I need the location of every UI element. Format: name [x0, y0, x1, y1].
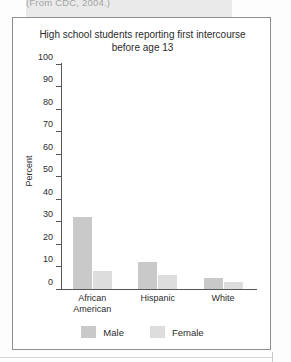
y-axis-tick-label: 80: [23, 97, 53, 107]
y-axis-tick-label: 100: [23, 52, 53, 62]
legend-swatch-male: [81, 326, 96, 338]
bar-female-white: [224, 282, 243, 289]
x-axis-category-label-line: African: [78, 293, 106, 303]
x-axis-category-label-line: White: [212, 293, 235, 303]
legend-label-female: Female: [172, 327, 204, 338]
y-axis-tick-label: 60: [23, 142, 53, 152]
bar-female-african-american: [93, 271, 112, 289]
y-axis-tick-label: 30: [23, 209, 53, 219]
x-axis-category-label: White: [183, 293, 263, 304]
plot-area: Percent 0102030405060708090100 AfricanAm…: [13, 18, 272, 351]
y-axis-tick: [56, 221, 62, 222]
bar-male-hispanic: [138, 262, 157, 289]
y-axis-tick: [56, 266, 62, 267]
y-axis-tick-label: 0: [23, 277, 53, 287]
x-axis-category-label-line: American: [73, 304, 111, 314]
y-axis-tick-label: 10: [23, 254, 53, 264]
page-rule-vertical: [272, 352, 273, 362]
y-axis-tick: [56, 86, 62, 87]
y-axis-tick: [56, 131, 62, 132]
y-axis-tick: [56, 199, 62, 200]
y-axis-tick: [56, 64, 62, 65]
page-rule-horizontal: [0, 357, 272, 358]
legend-label-male: Male: [103, 327, 124, 338]
bar-female-hispanic: [158, 275, 177, 289]
y-axis-tick: [56, 109, 62, 110]
x-axis-category-label-line: Hispanic: [140, 293, 175, 303]
figure-frame: High school students reporting first int…: [12, 17, 271, 350]
y-axis-tick-label: 50: [23, 164, 53, 174]
y-axis-tick: [56, 176, 62, 177]
x-axis-line: [61, 289, 257, 290]
legend-item-male: Male: [81, 326, 124, 338]
legend-swatch-female: [150, 326, 165, 338]
y-axis-tick: [56, 154, 62, 155]
scanned-page: (From CDC, 2004.) High school students r…: [0, 0, 291, 362]
legend-item-female: Female: [150, 326, 204, 338]
y-axis-tick-label: 20: [23, 232, 53, 242]
y-axis-tick: [56, 244, 62, 245]
y-axis-tick-label: 40: [23, 187, 53, 197]
y-axis-tick: [56, 289, 62, 290]
chart-legend: MaleFemale: [13, 326, 272, 338]
y-axis-tick-label: 70: [23, 119, 53, 129]
bar-male-white: [204, 278, 223, 289]
bar-male-african-american: [73, 217, 92, 289]
figure-caption-fragment: (From CDC, 2004.): [26, 0, 226, 11]
y-axis-tick-label: 90: [23, 74, 53, 84]
